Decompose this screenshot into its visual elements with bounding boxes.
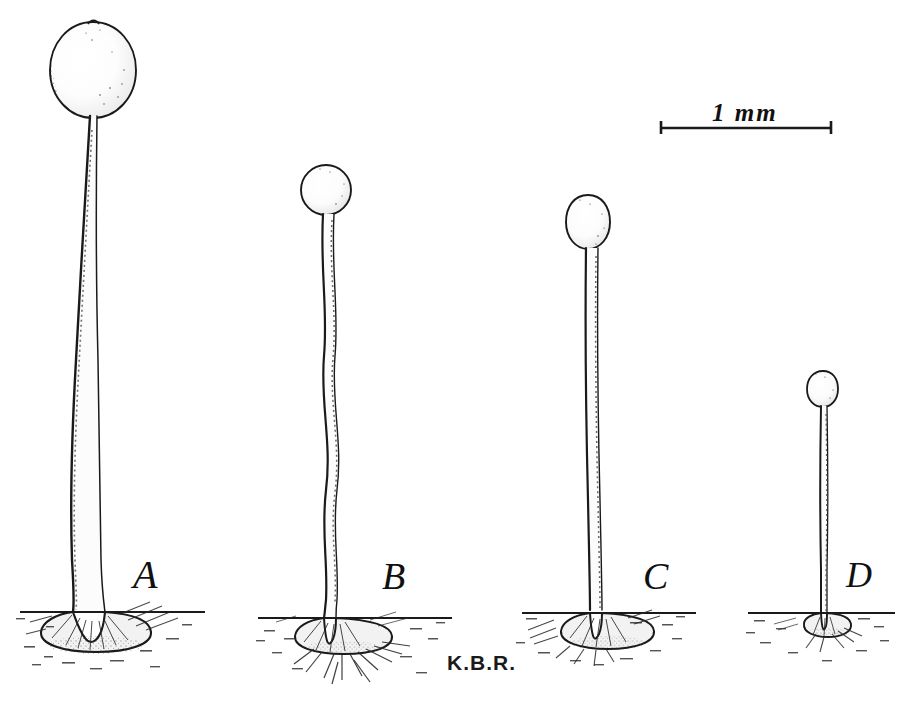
disc-c-shadow xyxy=(570,636,646,650)
specimen-b xyxy=(250,160,480,690)
specimen-c xyxy=(510,190,720,680)
scale-bar-label: 1 mm xyxy=(712,100,778,125)
specimen-label-a: A xyxy=(133,555,157,595)
artist-signature: K.B.R. xyxy=(447,652,516,673)
cap-a-body xyxy=(50,22,136,118)
cap-d-body xyxy=(807,371,838,407)
stalk-d-left-edge xyxy=(820,406,821,613)
cap-c-body xyxy=(566,195,610,249)
disc-a-shadow xyxy=(48,636,144,654)
disc-b-shadow xyxy=(303,641,383,655)
specimen-d xyxy=(740,360,901,680)
illustration-plate: A xyxy=(0,0,901,716)
specimen-label-b: B xyxy=(382,557,405,595)
specimen-label-c: C xyxy=(643,557,668,595)
specimen-a xyxy=(0,0,230,690)
cap-b-body xyxy=(301,165,351,215)
specimen-label-d: D xyxy=(846,557,872,593)
